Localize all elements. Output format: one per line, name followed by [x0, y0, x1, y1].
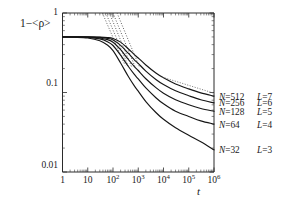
x-tick-label-3: 103: [125, 176, 151, 186]
curve-series-0: [63, 37, 215, 96]
legend-n-label-4: N=32: [219, 145, 240, 155]
x-tick-label-4: 104: [151, 176, 177, 186]
x-axis-label: t: [197, 186, 200, 197]
figure-log-log-plot: 1−<ρ> 1 0.1 0.01 110102103104105106 t N=…: [0, 0, 292, 204]
tail-dotted-overlays: [162, 77, 214, 93]
plot-canvas: [0, 0, 292, 204]
x-tick-label-0: 1: [50, 176, 76, 186]
x-tick-label-1: 10: [75, 176, 101, 186]
legend-n-label-2: N=128: [219, 107, 244, 117]
legend-l-label-4: L=3: [257, 145, 272, 155]
y-tick-label-0.1: 0.1: [36, 79, 58, 89]
y-tick-label-0.01: 0.01: [30, 161, 58, 171]
legend-n-label-3: N=64: [219, 120, 240, 130]
legend-l-label-3: L=4: [257, 120, 272, 130]
x-tick-label-2: 102: [100, 176, 126, 186]
y-axis-label: 1−<ρ>: [20, 18, 50, 30]
curve-series-3: [63, 37, 215, 124]
x-tick-label-6: 106: [201, 176, 227, 186]
y-tick-label-1: 1: [44, 8, 58, 18]
curve-series-4: [63, 37, 215, 150]
curve-series-2: [63, 37, 215, 111]
tail-dots-512: [162, 77, 214, 93]
legend-l-label-2: L=5: [257, 107, 272, 117]
data-curves: [63, 37, 215, 150]
